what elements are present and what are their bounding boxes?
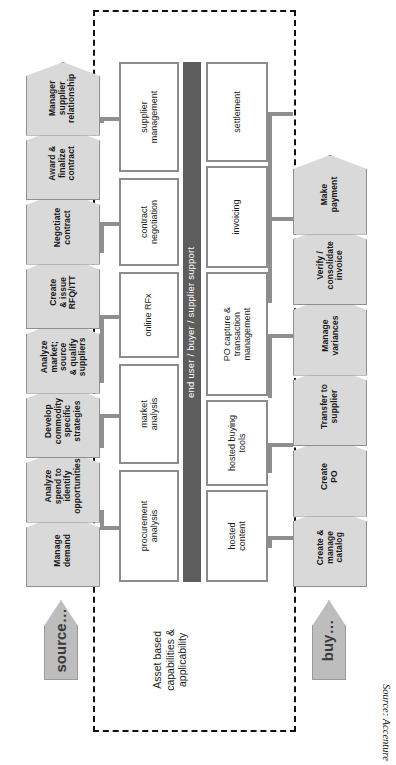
buy-step-create-po[interactable]: CreatePO [293, 437, 367, 517]
buy-arrow: buy… [312, 600, 346, 680]
buy-step-make-payment[interactable]: Makepayment [293, 155, 367, 235]
buy-step-label: Makepayment [320, 177, 339, 213]
source-capability-supplier-management[interactable]: suppliermanagement [119, 62, 179, 172]
connector-buy-vert1 [268, 443, 272, 473]
buy-capability-settlement[interactable]: settlement [206, 62, 268, 162]
source-step-text: Award &finalizecontract [26, 127, 100, 201]
connector-source-h3 [100, 222, 119, 226]
source-step-create-issue-rfq[interactable]: Create& issueRFQ/ITT [26, 256, 100, 330]
source-capability-market-analysis[interactable]: marketanalysis [119, 364, 179, 464]
source-step-label: Analyzemarket;source& qualifysuppliers [39, 337, 87, 376]
source-credit: Source: Accenture [381, 684, 392, 761]
source-step-label: Developcommodityspecificstrategies [44, 398, 82, 444]
connector-source-h4 [100, 117, 119, 121]
buy-capability-po-capture[interactable]: PO capture &transactionmanagement [206, 272, 268, 396]
connector-buy-h2 [268, 334, 293, 338]
support-bar: end user / buyer / supplier support [183, 62, 201, 582]
connector-source-vert2 [100, 315, 104, 383]
source-step-analyze-spend[interactable]: Analyzespend toidentifyopportunities [26, 449, 100, 523]
buy-step-label: Verify /consolidateinvoice [316, 241, 345, 289]
buy-capability-invoicing[interactable]: invoicing [206, 166, 268, 268]
source-step-text: Managersupplierrelationship [26, 62, 100, 136]
capability-label: contractnegotiation [139, 200, 159, 244]
capability-label: procurementanalysis [139, 501, 159, 552]
capability-label: marketanalysis [139, 398, 159, 431]
capability-label: hostedcontent [227, 521, 247, 551]
source-step-text: Developcommodityspecificstrategies [26, 385, 100, 459]
connector-source-vert3 [100, 222, 104, 253]
buy-step-transfer-to-supplier[interactable]: Transfer tosupplier [293, 367, 367, 447]
source-step-award-finalize[interactable]: Award &finalizecontract [26, 127, 100, 201]
buy-step-create-manage-catalog[interactable]: Create &managecatalog [293, 508, 367, 588]
capability-label: settlement [232, 91, 242, 133]
buy-step-text: Managevariances [293, 296, 367, 376]
source-step-manage-supplier-rel[interactable]: Managersupplierrelationship [26, 62, 100, 136]
connector-source-h2 [100, 315, 119, 319]
source-step-text: Analyzespend toidentifyopportunities [26, 449, 100, 523]
connector-buy-vert2 [268, 334, 272, 398]
connector-source-h1 [100, 414, 119, 418]
capability-label: online RFx [144, 293, 154, 336]
source-step-label: Create& issueRFQ/ITT [49, 275, 78, 309]
buy-step-label: CreatePO [320, 463, 339, 490]
source-step-negotiate-contract[interactable]: Negotiatecontract [26, 191, 100, 265]
buy-arrow-label: buy… [321, 619, 338, 661]
source-step-label: Managersupplierrelationship [49, 74, 78, 123]
source-step-label: Analyzespend toidentifyopportunities [44, 458, 82, 514]
source-arrow: source… [44, 600, 78, 680]
source-step-label: Negotiatecontract [53, 208, 72, 248]
buy-step-label: Create &managecatalog [316, 529, 345, 565]
connector-buy-h1 [268, 443, 293, 447]
connector-buy-vert4 [268, 112, 272, 218]
source-step-analyze-market[interactable]: Analyzemarket;source& qualifysuppliers [26, 320, 100, 394]
buy-capability-hosted-buying-tools[interactable]: hosted buyingtools [206, 400, 268, 486]
source-step-text: Analyzemarket;source& qualifysuppliers [26, 320, 100, 394]
diagram-canvas: ManagedemandAnalyzespend toidentifyoppor… [0, 0, 396, 765]
source-step-text: Negotiatecontract [26, 191, 100, 265]
buy-capability-hosted-content[interactable]: hostedcontent [206, 490, 268, 582]
source-capability-online-rfx[interactable]: online RFx [119, 272, 179, 358]
source-step-text: Managedemand [26, 514, 100, 588]
buy-step-text: Transfer tosupplier [293, 367, 367, 447]
connector-buy-h0 [268, 536, 293, 540]
source-arrow-label: source… [53, 608, 70, 672]
source-step-manage-demand[interactable]: Managedemand [26, 514, 100, 588]
buy-step-manage-variances[interactable]: Managevariances [293, 296, 367, 376]
source-step-develop-commodity[interactable]: Developcommodityspecificstrategies [26, 385, 100, 459]
capability-label: PO capture &transactionmanagement [222, 307, 252, 361]
source-step-label: Managedemand [53, 534, 72, 567]
connector-buy-vert3 [268, 217, 272, 303]
source-step-label: Award &finalizecontract [49, 146, 78, 181]
asset-capabilities-label: Asset basedcapabilities &applicability [140, 600, 200, 720]
buy-step-text: CreatePO [293, 437, 367, 517]
buy-step-text: Verify /consolidateinvoice [293, 226, 367, 306]
buy-step-verify-consolidate[interactable]: Verify /consolidateinvoice [293, 226, 367, 306]
capability-label: invoicing [232, 199, 242, 234]
connector-source-h0 [100, 526, 119, 530]
support-bar-label: end user / buyer / supplier support [187, 246, 198, 397]
source-capability-procurement-analysis[interactable]: procurementanalysis [119, 470, 179, 582]
capability-label: hosted buyingtools [227, 415, 247, 471]
buy-step-label: Transfer tosupplier [320, 384, 339, 429]
connector-buy-h4 [268, 112, 293, 116]
capability-label: suppliermanagement [139, 91, 159, 144]
buy-step-text: Makepayment [293, 155, 367, 235]
buy-step-text: Create &managecatalog [293, 508, 367, 588]
source-capability-contract-negotiation[interactable]: contractnegotiation [119, 178, 179, 266]
buy-step-label: Managevariances [320, 316, 339, 356]
source-step-text: Create& issueRFQ/ITT [26, 256, 100, 330]
connector-source-vert1 [100, 414, 104, 448]
